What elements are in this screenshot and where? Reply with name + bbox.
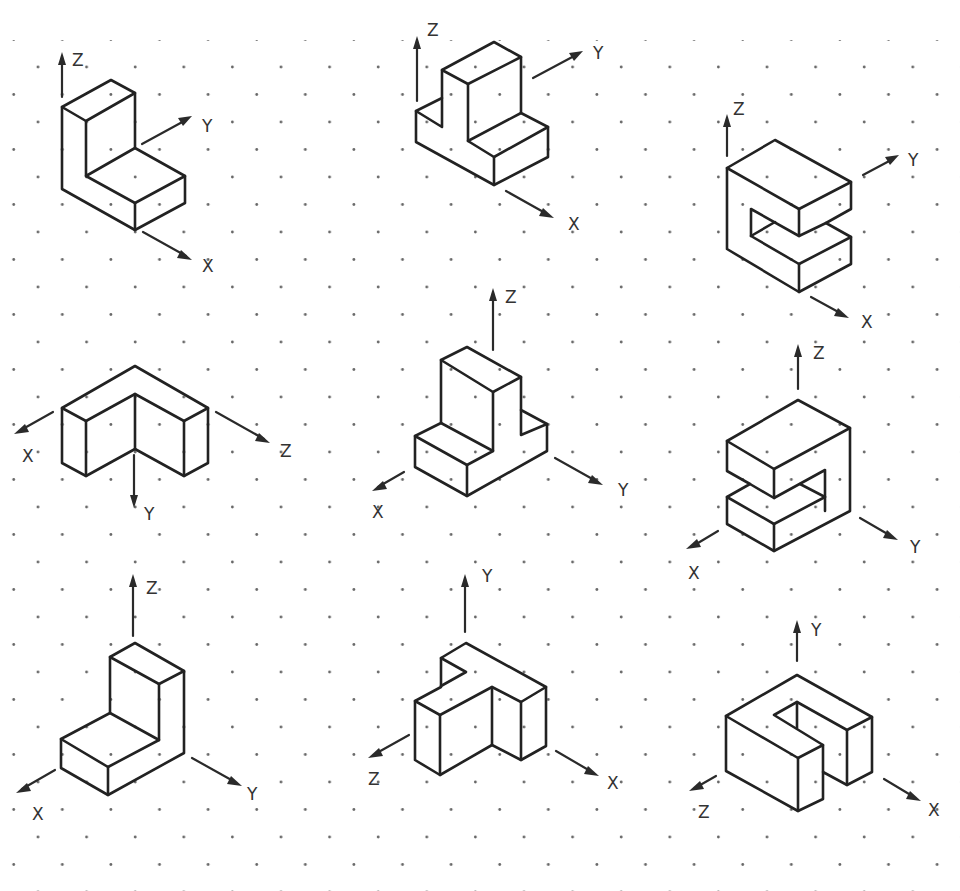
axis-label-y: Y	[481, 566, 493, 586]
axis-label-y: Y	[617, 480, 629, 500]
axis-label-z: Z	[280, 441, 292, 461]
axis-label-y: Y	[592, 43, 604, 63]
axis-label-x: X	[928, 800, 940, 820]
axis-label-z: Z	[813, 343, 825, 363]
axis-label-x: X	[607, 773, 619, 793]
axis-label-z: Z	[427, 20, 439, 40]
axis-label-y: Y	[246, 784, 258, 804]
axis-label-x: X	[568, 214, 580, 234]
axis-label-x: X	[372, 502, 384, 522]
axis-label-z: Z	[368, 769, 380, 789]
axis-label-x: X	[22, 446, 34, 466]
axis-label-x: X	[32, 804, 44, 824]
dot-grid	[0, 40, 960, 891]
axis-label-z: Z	[72, 50, 84, 70]
axis-label-x: X	[202, 256, 214, 276]
axis-label-x: X	[861, 312, 873, 332]
axis-label-y: Y	[201, 116, 213, 136]
isometric-drawing-sheet: Z Y X Z Y X	[0, 0, 960, 891]
axis-label-y: Y	[907, 150, 919, 170]
axis-label-z: Z	[733, 99, 745, 119]
axis-label-y: Y	[909, 537, 921, 557]
axis-label-z: Z	[146, 578, 158, 598]
axis-label-y: Y	[143, 504, 155, 524]
axis-label-z: Z	[698, 802, 710, 822]
axis-label-x: X	[688, 563, 700, 583]
axis-label-y: Y	[810, 620, 822, 640]
axis-label-z: Z	[505, 287, 517, 307]
